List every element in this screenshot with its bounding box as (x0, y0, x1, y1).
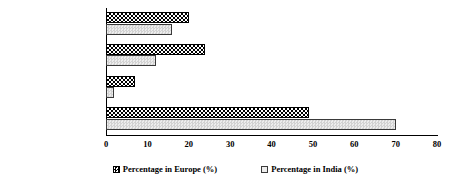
plot-area: Renewable Energy Hydroelectic Power Nucl… (106, 8, 437, 135)
legend-label: Percentage in India (%) (271, 164, 358, 174)
x-tick-label: 10 (127, 139, 167, 149)
x-tick-label: 0 (86, 139, 126, 149)
x-tick-label: 60 (334, 139, 374, 149)
legend-item-europe[interactable]: Percentage in Europe (%) (113, 164, 217, 174)
bar-india (106, 87, 114, 98)
chart-legend: Percentage in Europe (%) Percentage in I… (0, 164, 471, 174)
bar-india (106, 24, 172, 35)
bar-europe (106, 44, 205, 55)
legend-label: Percentage in Europe (%) (123, 164, 217, 174)
category-group-fossil-fuels: Fossil Fuels (106, 103, 437, 135)
x-tick-label: 20 (169, 139, 209, 149)
x-tick-label: 80 (417, 139, 457, 149)
x-tick-label: 70 (376, 139, 416, 149)
bar-india (106, 119, 396, 130)
bar-europe (106, 76, 135, 87)
checker-swatch-icon (113, 166, 120, 173)
bar-chart: Renewable Energy Hydroelectic Power Nucl… (0, 0, 471, 185)
light-swatch-icon (261, 166, 268, 173)
x-tick-label: 40 (252, 139, 292, 149)
bar-europe (106, 12, 189, 23)
legend-item-india[interactable]: Percentage in India (%) (261, 164, 358, 174)
x-tick-label: 30 (210, 139, 250, 149)
bar-europe (106, 107, 309, 118)
category-group-nuclear-power: Nuclear Power (106, 72, 437, 104)
category-group-renewable-energy: Renewable Energy (106, 8, 437, 40)
x-axis-line (106, 135, 438, 136)
x-tick-label: 50 (293, 139, 333, 149)
category-group-hydroelectic-power: Hydroelectic Power (106, 40, 437, 72)
bar-india (106, 55, 156, 66)
